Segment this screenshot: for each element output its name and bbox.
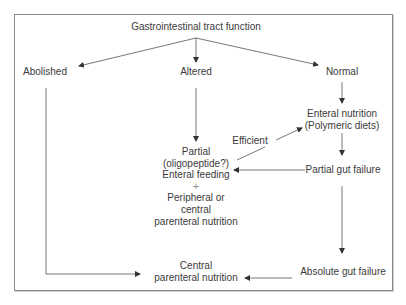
node-abolished-label: Abolished xyxy=(23,66,67,78)
node-altered-label: Altered xyxy=(180,66,212,78)
node-absolute-gut-failure: Absolute gut failure xyxy=(300,266,386,278)
node-absolute-gut-failure-label: Absolute gut failure xyxy=(300,266,386,278)
node-root: Gastrointestinal tract function xyxy=(131,21,261,33)
edge-label-efficient: Efficient xyxy=(232,135,267,147)
node-altered: Altered xyxy=(180,66,212,78)
edge-root-normal xyxy=(196,38,318,65)
edge-root-abolished xyxy=(79,38,196,66)
node-partial-feeding: Partial (oligopeptide?) Enteral feeding … xyxy=(154,146,237,227)
node-partial-line-2: (oligopeptide?) xyxy=(154,158,237,170)
node-normal-label: Normal xyxy=(326,66,358,78)
node-central-line-1: Central xyxy=(154,260,237,272)
node-enteral-nutrition: Enteral nutrition (Polymeric diets) xyxy=(305,108,379,131)
node-root-label: Gastrointestinal tract function xyxy=(131,21,261,33)
node-abolished: Abolished xyxy=(23,66,67,78)
node-partial-gut-failure-label: Partial gut failure xyxy=(305,164,380,176)
node-central-parenteral: Central parenteral nutrition xyxy=(154,260,237,283)
node-partial-line-6: central xyxy=(154,204,237,216)
node-partial-line-7: parenteral nutrition xyxy=(154,216,237,228)
node-partial-line-3: Enteral feeding xyxy=(154,169,237,181)
edge-abolished-central xyxy=(46,88,140,274)
node-partial-line-5: Peripheral or xyxy=(154,192,237,204)
node-partial-line-1: Partial xyxy=(154,146,237,158)
edge-partial-efficient-a xyxy=(237,147,265,160)
node-central-line-2: parenteral nutrition xyxy=(154,272,237,284)
node-partial-line-4: + xyxy=(154,181,237,193)
node-partial-gut-failure: Partial gut failure xyxy=(305,164,380,176)
efficient-label: Efficient xyxy=(232,135,267,147)
node-enteral-line-2: (Polymeric diets) xyxy=(305,120,379,132)
node-normal: Normal xyxy=(326,66,358,78)
edge-partial-efficient-b xyxy=(276,128,302,140)
node-enteral-line-1: Enteral nutrition xyxy=(305,108,379,120)
